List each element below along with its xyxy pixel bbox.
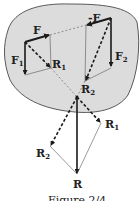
figure-caption: Figure 2/4: [48, 194, 106, 201]
label-R1-lower: R1: [105, 118, 119, 132]
closing-line-R1: [77, 123, 101, 174]
closing-line-R2: [50, 146, 77, 174]
label-F: F: [33, 24, 41, 37]
label-R2-lower: R2: [36, 147, 50, 161]
label-R: R: [73, 178, 83, 191]
force-diagram: F F1 R1 -F F2 R2 R1 R2 R Figure 2/4: [0, 0, 140, 201]
label-neg-F: -F: [88, 12, 101, 25]
